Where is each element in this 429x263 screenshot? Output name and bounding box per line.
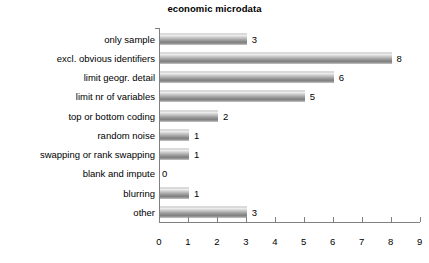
bar [160,149,189,160]
x-axis-tick-label: 8 [379,236,403,247]
bar-and-value: 0 [160,168,167,179]
bar-and-value: 5 [160,91,315,102]
bar-value-label: 1 [194,187,199,198]
bar-value-label: 1 [194,129,199,140]
bar-and-value: 1 [160,149,199,160]
bar-value-label: 8 [397,52,402,63]
bar-row: excl. obvious identifiers8 [0,48,429,67]
category-label: limit geogr. detail [84,72,155,83]
x-axis-tick [333,217,334,222]
bar-value-label: 1 [194,149,199,160]
x-axis-tick-label: 5 [292,236,316,247]
bar-and-value: 1 [160,129,199,140]
category-label: only sample [104,33,155,44]
x-axis-tick-label: 6 [321,236,345,247]
bar-value-label: 3 [252,206,257,217]
category-label: excl. obvious identifiers [57,52,155,63]
bar-row: other3 [0,202,429,221]
bar-value-label: 5 [310,91,315,102]
bar-and-value: 3 [160,33,257,44]
bar-row: limit nr of variables5 [0,87,429,106]
chart-title: economic microdata [0,3,429,14]
bar [160,129,189,140]
x-axis-tick-label: 9 [408,236,429,247]
category-label: top or bottom coding [68,110,155,121]
bar-value-label: 3 [252,33,257,44]
x-axis-tick-label: 2 [205,236,229,247]
x-axis-tick-label: 0 [147,236,171,247]
bar-row: only sample3 [0,29,429,48]
bar-row: random noise1 [0,125,429,144]
x-axis-tick [246,217,247,222]
bar-row: swapping or rank swapping1 [0,145,429,164]
bar [160,72,334,83]
category-label: other [133,206,155,217]
x-axis-tick [391,217,392,222]
bar-row: blurring1 [0,183,429,202]
bar-value-label: 6 [339,72,344,83]
bar-row: top or bottom coding2 [0,106,429,125]
category-label: limit nr of variables [76,91,155,102]
bar-and-value: 2 [160,110,228,121]
bar-and-value: 8 [160,52,402,63]
x-axis-tick [362,217,363,222]
bar [160,33,247,44]
bar [160,91,305,102]
x-axis-tick-label: 1 [176,236,200,247]
bar [160,52,392,63]
category-label: blurring [123,187,155,198]
x-axis-tick [217,217,218,222]
bar [160,187,189,198]
x-axis-tick [159,217,160,222]
bar [160,110,218,121]
x-axis-tick [188,217,189,222]
category-label: random noise [97,129,155,140]
bar-and-value: 6 [160,72,344,83]
bar [160,206,247,217]
x-axis-tick [275,217,276,222]
bar-and-value: 1 [160,187,199,198]
x-axis-tick [420,217,421,222]
bar-value-label: 0 [162,168,167,179]
x-axis-line [159,222,420,223]
x-axis-tick [304,217,305,222]
bar-and-value: 3 [160,206,257,217]
bar-row: blank and impute0 [0,164,429,183]
category-label: blank and impute [83,168,155,179]
chart-container: economic microdata only sample3excl. obv… [0,0,429,263]
x-axis-tick-label: 3 [234,236,258,247]
x-axis-tick-label: 4 [263,236,287,247]
x-axis-tick-label: 7 [350,236,374,247]
category-label: swapping or rank swapping [40,149,155,160]
bar-value-label: 2 [223,110,228,121]
bar-row: limit geogr. detail6 [0,68,429,87]
